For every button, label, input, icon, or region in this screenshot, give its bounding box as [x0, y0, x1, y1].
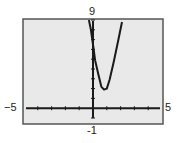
calculator-screen	[0, 0, 179, 143]
